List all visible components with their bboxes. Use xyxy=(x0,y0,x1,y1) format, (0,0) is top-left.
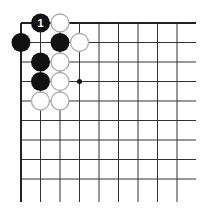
black-stone[interactable] xyxy=(31,53,50,72)
white-stone[interactable] xyxy=(51,92,69,110)
board-grid xyxy=(21,23,196,202)
star-point xyxy=(77,79,82,84)
black-stone[interactable] xyxy=(12,33,31,52)
white-stone[interactable] xyxy=(71,34,89,52)
go-board: 1 xyxy=(0,0,207,217)
black-stone[interactable] xyxy=(51,33,70,52)
move-number: 1 xyxy=(37,17,43,29)
white-stone[interactable] xyxy=(51,53,69,71)
white-stone[interactable] xyxy=(32,92,50,110)
star-points xyxy=(77,79,82,84)
black-stone[interactable] xyxy=(31,72,50,91)
white-stone[interactable] xyxy=(51,14,69,32)
black-stone[interactable]: 1 xyxy=(31,14,50,33)
white-stone[interactable] xyxy=(51,73,69,91)
